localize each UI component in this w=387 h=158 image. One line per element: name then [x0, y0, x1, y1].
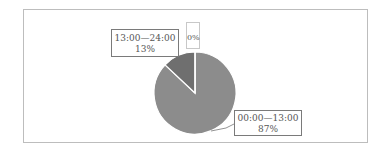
data-label-zero: 0%	[186, 22, 200, 49]
label-value: 87%	[235, 124, 301, 135]
data-label-13-24: 13:00—24:00 13%	[111, 29, 179, 57]
label-value: 13%	[112, 44, 178, 55]
label-value: 0%	[187, 32, 199, 43]
label-name: 13:00—24:00	[112, 33, 178, 44]
data-label-0-13: 00:00—13:00 87%	[234, 110, 302, 136]
label-name: 00:00—13:00	[235, 113, 301, 124]
